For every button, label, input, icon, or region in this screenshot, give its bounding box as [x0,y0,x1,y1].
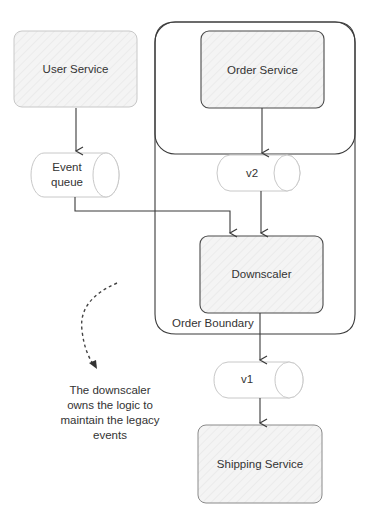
order-service-label: Order Service [201,63,324,78]
annotation-text: The downscaler owns the logic to maintai… [55,383,165,443]
shipping-service-label: Shipping Service [198,457,322,472]
event-queue-label-line1: Event [36,160,98,175]
annotation-line3: maintain the legacy [55,413,165,428]
edge-queue-to-downscaler [75,197,230,233]
annotation-arrowhead-icon [89,360,97,369]
annotation-line4: events [55,428,165,443]
v1-label: v1 [216,372,278,387]
event-queue-label-line2: queue [36,175,98,190]
annotation-line1: The downscaler [55,383,165,398]
downscaler-label: Downscaler [200,267,323,282]
v2-label: v2 [222,166,282,181]
user-service-label: User Service [14,62,137,77]
order-boundary-label: Order Boundary [172,316,254,331]
event-queue-label: Event queue [36,160,98,190]
annotation-arrow [82,283,117,364]
annotation-line2: owns the logic to [55,398,165,413]
